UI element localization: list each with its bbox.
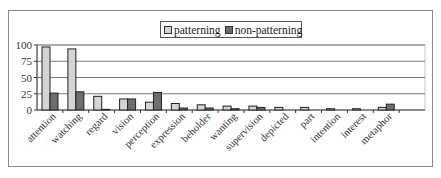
bar-non-patterning-vision xyxy=(128,99,136,110)
bar-patterning-regard xyxy=(94,96,102,110)
bar-patterning-part xyxy=(301,107,309,110)
bar-non-patterning-wanting xyxy=(231,109,239,110)
bar-patterning-metaphor xyxy=(378,107,386,110)
bar-non-patterning-supervision xyxy=(257,107,265,110)
bar-patterning-vision xyxy=(120,99,128,110)
bar-non-patterning-watching xyxy=(76,92,84,110)
bar-chart: 0255075100attentionwatchingregardvisionp… xyxy=(0,0,441,178)
x-tick-label-beholder: beholder xyxy=(179,110,213,144)
y-tick-label: 0 xyxy=(27,104,33,116)
bar-non-patterning-regard xyxy=(102,109,110,110)
bar-patterning-expression xyxy=(171,104,179,111)
bar-non-patterning-metaphor xyxy=(386,104,394,110)
bar-patterning-interest xyxy=(352,109,360,110)
bar-patterning-attention xyxy=(42,47,50,110)
bar-patterning-watching xyxy=(68,49,76,110)
bar-non-patterning-expression xyxy=(179,108,187,110)
bar-patterning-supervision xyxy=(249,106,257,110)
y-tick-label: 50 xyxy=(21,72,33,84)
bar-non-patterning-perception xyxy=(153,92,161,110)
bar-patterning-depicted xyxy=(275,107,283,110)
x-tick-label-part: part xyxy=(297,111,316,130)
y-tick-label: 25 xyxy=(21,88,33,100)
y-tick-label: 75 xyxy=(21,55,33,67)
bar-patterning-perception xyxy=(145,102,153,110)
x-tick-label-depicted: depicted xyxy=(258,110,291,143)
bar-non-patterning-attention xyxy=(50,93,58,110)
bar-patterning-beholder xyxy=(197,105,205,110)
bar-non-patterning-beholder xyxy=(205,108,213,110)
x-tick-label-regard: regard xyxy=(83,110,110,137)
bar-patterning-wanting xyxy=(223,106,231,110)
y-tick-label: 100 xyxy=(16,39,33,51)
bar-patterning-intention xyxy=(327,109,335,110)
